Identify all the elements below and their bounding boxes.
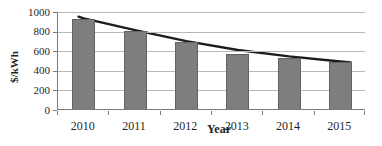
y-tick-mark-800 <box>53 32 57 33</box>
gridline-1000 <box>58 12 365 13</box>
plot-area <box>57 12 365 110</box>
y-tick-label-600: 600 <box>20 45 50 58</box>
x-tick-mark-3 <box>211 111 212 115</box>
x-tick-mark-5 <box>314 111 315 115</box>
x-tick-label-2014: 2014 <box>266 119 310 133</box>
x-tick-mark-1 <box>108 111 109 115</box>
y-tick-mark-400 <box>53 71 57 72</box>
bar-2012 <box>175 42 198 109</box>
y-tick-label-800: 800 <box>20 25 50 38</box>
x-tick-label-2015: 2015 <box>317 119 361 133</box>
y-tick-label-1000: 1000 <box>20 6 50 19</box>
trendline <box>58 12 366 110</box>
bar-2011 <box>124 31 147 109</box>
x-tick-label-2013: 2013 <box>215 119 259 133</box>
x-tick-mark-2 <box>160 111 161 115</box>
x-tick-mark-6 <box>364 111 365 115</box>
bar-2013 <box>226 54 249 109</box>
x-tick-mark-4 <box>262 111 263 115</box>
trendline-path <box>79 17 351 63</box>
x-tick-label-2010: 2010 <box>61 119 105 133</box>
bar-2014 <box>278 58 301 109</box>
bar-2015 <box>329 62 352 109</box>
bar-2010 <box>72 19 95 109</box>
y-tick-mark-1000 <box>53 12 57 13</box>
x-tick-label-2011: 2011 <box>112 119 156 133</box>
x-tick-label-2012: 2012 <box>163 119 207 133</box>
y-tick-mark-200 <box>53 90 57 91</box>
y-tick-label-400: 400 <box>20 64 50 77</box>
y-tick-mark-600 <box>53 51 57 52</box>
y-tick-label-0: 0 <box>20 104 50 117</box>
gridline-800 <box>58 32 365 33</box>
bar-chart-figure: $/kWh Year 02004006008001000201020112012… <box>0 0 382 146</box>
y-axis-title: $/kWh <box>8 51 20 83</box>
gridline-600 <box>58 51 365 52</box>
x-tick-mark-0 <box>57 111 58 115</box>
gridline-200 <box>58 90 365 91</box>
gridline-400 <box>58 71 365 72</box>
y-tick-label-200: 200 <box>20 84 50 97</box>
